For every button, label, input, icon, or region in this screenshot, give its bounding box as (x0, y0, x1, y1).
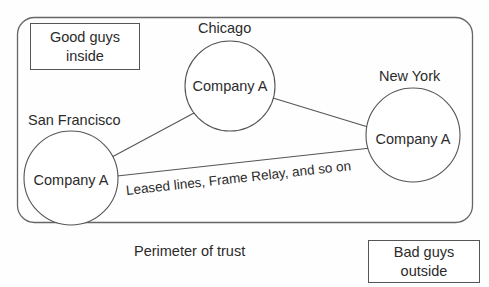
node-label-new-york: Company A (376, 131, 451, 148)
node-label-chicago: Company A (193, 78, 268, 95)
node-label-san-francisco: Company A (34, 172, 109, 189)
bad-guys-outside-box: Bad guys outside (368, 240, 480, 283)
good-guys-inside-line1: Good guys (50, 28, 120, 46)
city-label-chicago: Chicago (198, 20, 251, 37)
diagram-canvas: Good guys inside Bad guys outside Chicag… (0, 0, 489, 287)
good-guys-inside-box: Good guys inside (30, 23, 140, 70)
link-chicago-ny (273, 98, 368, 127)
link-sf-chicago (112, 113, 194, 157)
perimeter-of-trust-label: Perimeter of trust (134, 243, 245, 260)
bad-guys-outside-line2: outside (394, 262, 454, 280)
city-label-new-york: New York (379, 68, 440, 85)
good-guys-inside-line2: inside (50, 47, 120, 65)
bad-guys-outside-line1: Bad guys (394, 243, 454, 261)
city-label-san-francisco: San Francisco (28, 112, 121, 129)
